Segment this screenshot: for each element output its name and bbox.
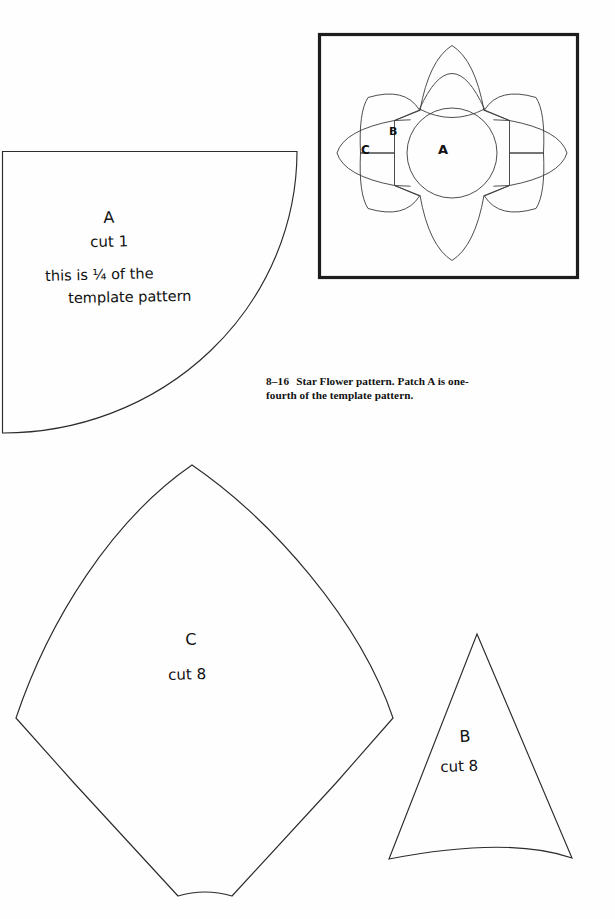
- figure-caption-text: Star Flower pattern. Patch A is one-four…: [266, 375, 469, 401]
- center-circle-patch-a: [407, 108, 497, 198]
- patch-b-outline: [389, 634, 572, 859]
- flower-petals: [337, 46, 567, 261]
- patch-a-label: A: [103, 208, 114, 227]
- petal-pointed-north: [420, 74, 485, 118]
- patch-b-label: B: [459, 726, 471, 746]
- patch-c-cut-count: cut 8: [168, 665, 206, 684]
- wedge-b-spokes: [395, 110, 510, 196]
- diagram-frame: [320, 35, 578, 278]
- patch-a-cut-count: cut 1: [90, 232, 128, 251]
- figure-number: 8–16: [266, 375, 289, 387]
- diagram-label-a: A: [438, 142, 448, 157]
- patch-b-template: [389, 634, 572, 859]
- quilt-template-page: A cut 1 this is ¼ of the template patter…: [0, 0, 615, 919]
- patch-a-note-line-2: template pattern: [68, 288, 192, 306]
- diagram-label-b: B: [389, 125, 397, 138]
- star-flower-diagram: [320, 35, 578, 278]
- diagram-label-c: C: [361, 143, 370, 157]
- petal-square-northeast: [485, 94, 544, 153]
- petal-pointed-north-shape: [420, 46, 484, 111]
- petal-square-southeast: [485, 153, 544, 212]
- patch-c-label: C: [185, 630, 197, 649]
- petal-pointed-south: [420, 196, 484, 261]
- petal-square-southwest: [360, 153, 419, 212]
- pattern-artwork: [0, 0, 615, 919]
- patch-a-note-line-1: this is ¼ of the: [45, 265, 154, 284]
- patch-b-cut-count: cut 8: [440, 757, 479, 776]
- figure-caption: 8–16Star Flower pattern. Patch A is one-…: [266, 374, 476, 402]
